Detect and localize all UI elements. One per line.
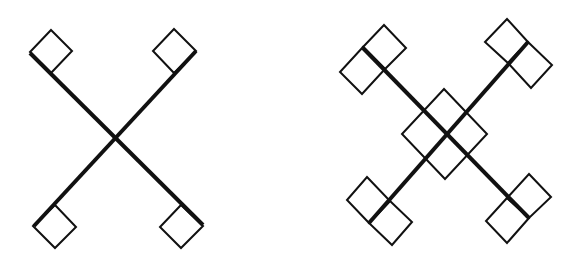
cross-arm-line	[369, 42, 528, 223]
single-square-cross-figure	[30, 29, 203, 248]
double-square-cross-figure	[340, 19, 552, 245]
square-shape	[347, 177, 390, 223]
cross-arm-line	[34, 51, 196, 226]
square-shape	[33, 205, 76, 248]
square-shape	[485, 19, 528, 63]
square-shape	[340, 47, 385, 94]
square-shape	[507, 174, 551, 218]
square-shape	[30, 30, 72, 73]
square-shape	[363, 25, 406, 69]
square-shape	[369, 201, 412, 245]
square-shape	[153, 29, 196, 73]
square-shape	[486, 198, 529, 243]
square-shape	[160, 205, 203, 248]
square-shape	[508, 42, 552, 88]
diagram-canvas	[0, 0, 575, 261]
diagram-svg	[0, 0, 575, 261]
